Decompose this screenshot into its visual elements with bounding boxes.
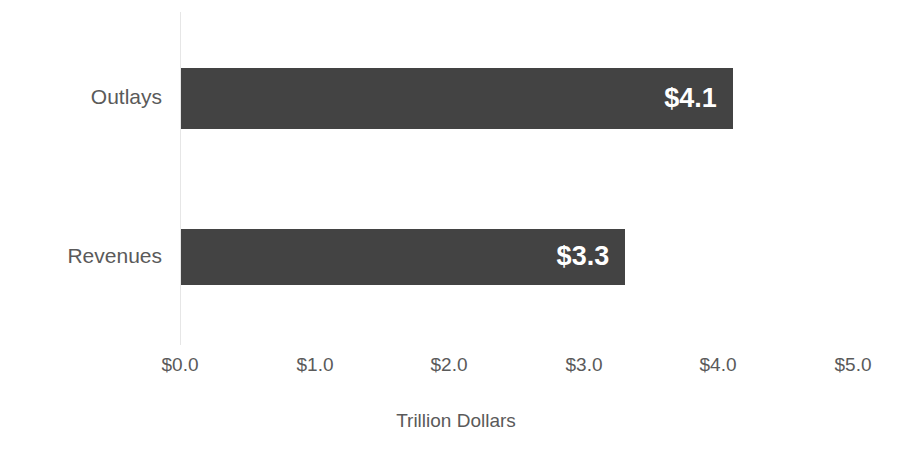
category-label-revenues-wrap: Revenues (0, 245, 162, 267)
xtick-label-0: $0.0 (135, 355, 225, 374)
bar-outlays[interactable]: $4.1 (181, 68, 733, 129)
category-label-outlays-wrap: Outlays (0, 86, 162, 108)
category-label-revenues: Revenues (67, 245, 162, 266)
xtick-label-5: $5.0 (808, 355, 898, 374)
xtick-label-4: $4.0 (673, 355, 763, 374)
xtick-label-2: $2.0 (404, 355, 494, 374)
xtick-label-3: $3.0 (539, 355, 629, 374)
bar-chart: Outlays $4.1 Revenues $3.3 $0.0 $1.0 $2.… (0, 0, 912, 462)
value-axis-line (180, 12, 181, 345)
x-axis-title: Trillion Dollars (0, 411, 912, 430)
bar-revenues[interactable]: $3.3 (181, 229, 625, 285)
category-label-outlays: Outlays (91, 86, 162, 107)
bar-value-revenues: $3.3 (557, 243, 610, 270)
bar-value-outlays: $4.1 (664, 85, 717, 112)
xtick-label-1: $1.0 (270, 355, 360, 374)
